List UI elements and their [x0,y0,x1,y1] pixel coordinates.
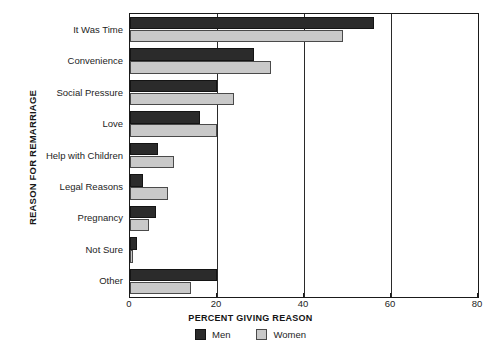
x-tick-label-80: 80 [472,298,483,309]
bar-men-0 [130,17,374,30]
x-tick-label-60: 60 [385,298,396,309]
bar-women-4 [130,156,174,169]
category-label-0: It Was Time [18,23,123,34]
category-label-1: Convenience [18,55,123,66]
bar-women-0 [130,30,343,43]
bar-women-8 [130,282,191,295]
bar-men-2 [130,80,217,93]
bar-women-3 [130,124,217,137]
bar-women-6 [130,219,149,232]
gridline-40 [304,14,305,297]
x-tick-label-0: 0 [126,298,131,309]
legend-label-men: Men [212,329,230,340]
category-label-4: Help with Children [18,149,123,160]
bar-women-2 [130,93,234,106]
bar-men-4 [130,143,158,156]
bar-men-7 [130,237,137,250]
bar-women-7 [130,250,133,263]
legend-label-women: Women [273,329,306,340]
bar-women-5 [130,187,168,200]
bar-men-5 [130,174,143,187]
chart-legend: MenWomen [0,329,501,340]
category-label-2: Social Pressure [18,86,123,97]
category-label-6: Pregnancy [18,212,123,223]
legend-item-men: Men [195,329,230,340]
x-tick-label-40: 40 [298,298,309,309]
bar-women-1 [130,61,271,74]
bar-chart: REASON FOR REMARRIAGE It Was TimeConveni… [0,0,501,355]
category-label-7: Not Sure [18,243,123,254]
x-axis-title: PERCENT GIVING REASON [0,313,501,323]
bar-men-8 [130,269,217,282]
category-axis-labels: It Was TimeConvenienceSocial PressureLov… [18,13,123,296]
plot-area [129,13,479,298]
legend-swatch-men [195,329,206,340]
x-tick-label-20: 20 [211,298,222,309]
x-axis-ticks: 020406080 [129,298,479,314]
legend-item-women: Women [256,329,306,340]
category-label-5: Legal Reasons [18,180,123,191]
category-label-8: Other [18,275,123,286]
gridline-60 [391,14,392,297]
bar-men-6 [130,206,156,219]
category-label-3: Love [18,118,123,129]
legend-swatch-women [256,329,267,340]
bar-men-1 [130,48,254,61]
bar-men-3 [130,111,200,124]
